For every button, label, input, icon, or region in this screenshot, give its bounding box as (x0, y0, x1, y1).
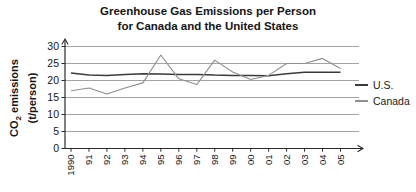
legend-item-us: U.S. (355, 77, 410, 93)
x-tick-label: 98 (209, 155, 220, 166)
legend-item-canada: Canada (355, 93, 410, 109)
y-tick-label: 10 (47, 108, 59, 120)
us-line-swatch (355, 84, 368, 86)
x-tick-label: 97 (191, 155, 202, 166)
y-tick-label: 15 (47, 91, 59, 103)
x-tick-label: 99 (227, 155, 238, 166)
legend-label-us: U.S. (373, 79, 393, 91)
chart-figure: Greenhouse Gas Emissions per Person for … (0, 0, 416, 192)
y-tick-label: 30 (47, 40, 59, 52)
x-tick-label: 02 (281, 155, 292, 166)
canada-line-swatch (355, 100, 368, 102)
legend-label-canada: Canada (373, 95, 410, 107)
x-tick-label: 93 (119, 155, 130, 166)
x-tick-label: 04 (317, 155, 328, 166)
x-tick-label: 94 (137, 155, 148, 166)
legend: U.S. Canada (355, 77, 410, 109)
y-tick-label: 0 (53, 142, 59, 154)
y-tick-label: 25 (47, 57, 59, 69)
x-tick-label: 05 (335, 155, 346, 166)
x-tick-label: 91 (83, 155, 94, 166)
x-tick-label: 95 (155, 155, 166, 166)
x-tick-label: 00 (245, 155, 256, 166)
y-tick-label: 20 (47, 74, 59, 86)
x-tick-label: 96 (173, 155, 184, 166)
chart-canvas: 0510152025301990919293949596979899000102… (0, 0, 416, 192)
y-tick-label: 5 (53, 125, 59, 137)
x-tick-label: 92 (101, 155, 112, 166)
x-tick-label: 03 (299, 155, 310, 166)
x-tick-label: 1990 (65, 155, 76, 176)
x-tick-label: 01 (263, 155, 274, 166)
